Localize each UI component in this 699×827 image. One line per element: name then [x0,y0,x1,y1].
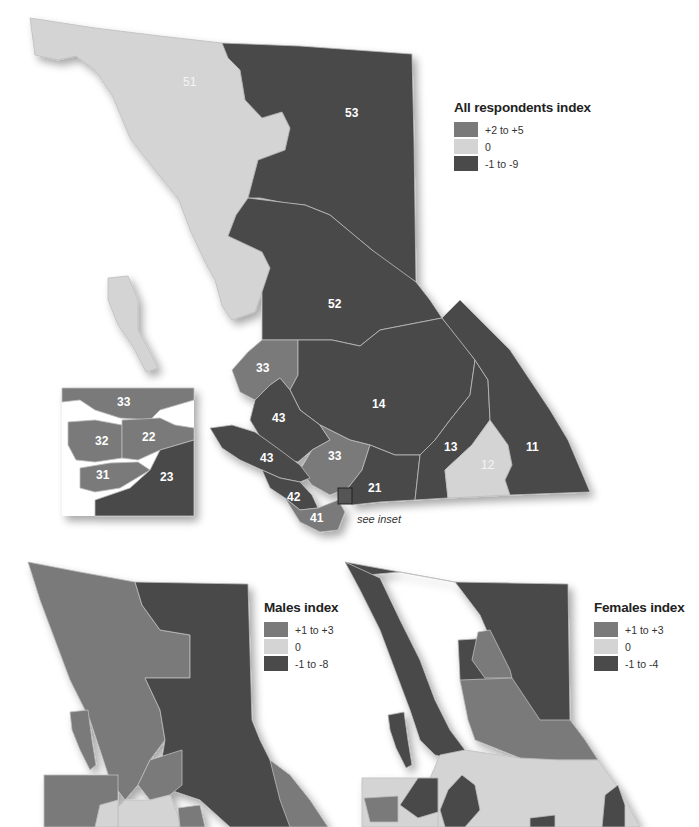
legend-label: +2 to +5 [485,124,524,136]
females-haida-gwaii [388,712,412,768]
legend-title: Males index [264,600,338,615]
legend-item-negative: -1 to -9 [454,155,591,172]
label-41: 41 [310,511,324,525]
legend-label: 0 [295,641,301,653]
legend-label: 0 [625,641,631,653]
legend-label: +1 to +3 [295,624,334,636]
males-region-south-zero [110,795,180,827]
legend-label: -1 to -9 [485,158,518,170]
label-21: 21 [368,481,382,495]
label-12: 12 [481,458,495,472]
legend-title: All respondents index [454,100,591,115]
legend-item-zero: 0 [264,638,338,655]
legend-title: Females index [594,600,684,615]
legend-label: -1 to -8 [295,658,328,670]
females-inset-pos [364,796,398,822]
legend-item-positive: +1 to +3 [594,621,684,638]
label-43-island: 43 [260,451,274,465]
legend-swatch [264,639,288,654]
inset-label-32: 32 [95,434,109,448]
label-43-mainland: 43 [272,411,286,425]
legend-swatch [594,622,618,637]
legend-label: 0 [485,141,491,153]
inset-label-23: 23 [160,470,174,484]
legend-item-zero: 0 [594,638,684,655]
legend-all-respondents: All respondents index +2 to +5 0 -1 to -… [454,100,591,172]
legend-label: -1 to -4 [625,658,658,670]
label-11: 11 [526,440,539,454]
label-51: 51 [183,75,197,89]
legend-item-negative: -1 to -8 [264,655,338,672]
legend-item-positive: +1 to +3 [264,621,338,638]
legend-swatch [454,122,478,137]
legend-swatch [454,139,478,154]
main-map: 51 53 52 33 43 43 14 33 13 12 11 21 42 4… [0,0,699,560]
legend-swatch [264,622,288,637]
label-14: 14 [372,397,386,411]
legend-item-negative: -1 to -4 [594,655,684,672]
label-33-coast: 33 [256,361,270,375]
legend-swatch [594,656,618,671]
legend-item-positive: +2 to +5 [454,121,591,138]
legend-label: +1 to +3 [625,624,664,636]
legend-females: Females index +1 to +3 0 -1 to -4 [594,600,684,672]
label-33-south: 33 [328,449,342,463]
island-haida-gwaii [108,276,158,372]
inset-label-31: 31 [96,468,110,482]
legend-males: Males index +1 to +3 0 -1 to -8 [264,600,338,672]
inset-marker [338,488,352,504]
males-region-south-pos [178,805,205,827]
legend-swatch [594,639,618,654]
label-52: 52 [328,297,342,311]
label-53: 53 [345,106,359,120]
inset-label-33: 33 [117,395,131,409]
label-13: 13 [444,440,458,454]
legend-item-zero: 0 [454,138,591,155]
legend-swatch [454,156,478,171]
legend-swatch [264,656,288,671]
inset-label-22: 22 [142,430,156,444]
label-42: 42 [287,490,301,504]
see-inset-note: see inset [357,513,401,525]
